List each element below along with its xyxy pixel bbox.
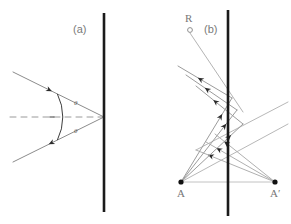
reflected-ray-1-arrowhead [196,75,204,83]
point-R-marker [188,28,193,33]
crossing-ray-right-2 [196,102,288,150]
point-A-prime-label: A′ [270,187,280,199]
physics-reflection-figure: θθ(a) RAA′(b) [0,0,291,224]
upper-incident-ray-arrowhead [45,86,53,93]
lower-reflected-ray [13,117,104,162]
panel-b-label: (b) [204,23,217,35]
virtual-ray-3 [196,150,275,182]
panel-b: RAA′(b) [177,10,288,216]
ray-from-R [190,33,243,112]
point-R-label: R [185,12,193,24]
panel-a: θθ(a) [10,13,104,212]
point-A-label: A [177,187,185,199]
virtual-ray-3-arrowhead [207,152,215,159]
point-A-marker [178,179,183,184]
angle-label-upper: θ [74,99,78,107]
lower-reflected-ray-arrowhead [47,139,55,146]
crossing-ray-right-1 [181,124,288,182]
diagram-canvas: θθ(a) RAA′(b) [0,0,291,224]
incident-ray-1-arrowhead [217,113,225,121]
panel-a-label: (a) [73,23,86,35]
angle-label-lower: θ [74,127,78,135]
upper-incident-ray [13,72,104,117]
incident-ray-1 [181,98,232,182]
point-A-prime-marker [272,179,277,184]
